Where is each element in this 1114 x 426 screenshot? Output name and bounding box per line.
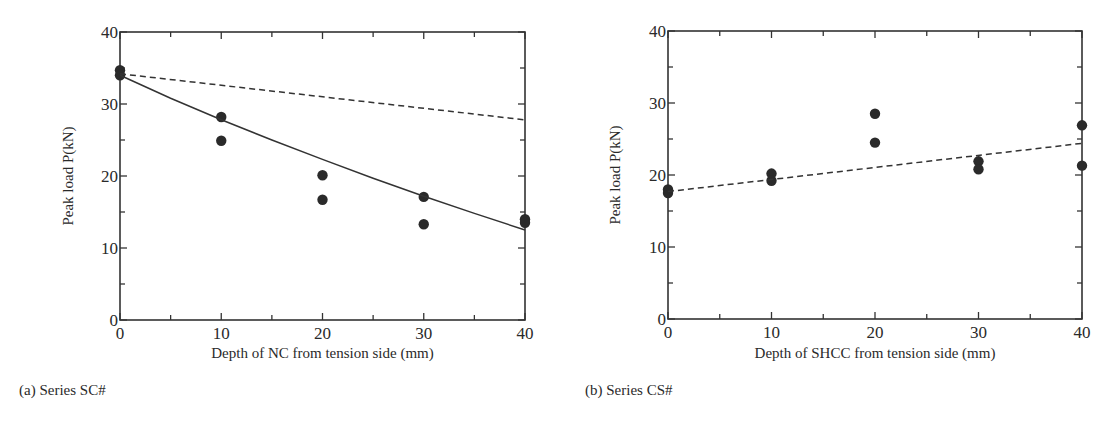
data-point (766, 176, 776, 186)
x-tick-label: 20 (867, 323, 884, 342)
y-tick-label: 40 (101, 23, 118, 42)
y-tick-label: 20 (101, 167, 118, 186)
data-point (419, 219, 429, 229)
data-point (973, 164, 983, 174)
data-point (317, 195, 327, 205)
y-tick-label: 40 (649, 22, 666, 41)
dashed-trend-line (120, 74, 525, 120)
caption-panel-b: (b) Series CS# (585, 382, 673, 399)
y-tick-label: 20 (649, 166, 666, 185)
x-tick-label: 20 (314, 324, 331, 343)
y-axis-title: Peak load P(kN) (60, 126, 77, 225)
x-tick-label: 40 (1074, 323, 1091, 342)
x-tick-label: 10 (213, 324, 230, 343)
caption-panel-a: (a) Series SC# (19, 382, 106, 399)
data-point (216, 136, 226, 146)
dashed-trend-line (668, 143, 1082, 191)
y-tick-label: 0 (658, 310, 667, 329)
y-tick-label: 0 (110, 311, 119, 330)
y-tick-label: 30 (101, 95, 118, 114)
y-tick-label: 10 (101, 239, 118, 258)
solid-fit-curve (120, 75, 525, 230)
data-point (317, 170, 327, 180)
x-tick-label: 40 (517, 324, 534, 343)
x-tick-label: 30 (970, 323, 987, 342)
figure: 010203040010203040Depth of NC from tensi… (0, 0, 1114, 426)
y-tick-label: 10 (649, 238, 666, 257)
chart-panel-a: 010203040010203040Depth of NC from tensi… (60, 23, 534, 362)
x-axis-title: Depth of NC from tension side (mm) (211, 345, 433, 362)
x-tick-label: 10 (763, 323, 780, 342)
x-axis-title: Depth of SHCC from tension side (mm) (755, 345, 996, 362)
plot-frame (668, 31, 1082, 319)
data-point (870, 137, 880, 147)
data-point (1077, 120, 1087, 130)
data-point (520, 218, 530, 228)
data-point (663, 188, 673, 198)
x-tick-label: 30 (415, 324, 432, 343)
y-axis-title: Peak load P(kN) (607, 125, 624, 224)
y-tick-label: 30 (649, 94, 666, 113)
chart-panel-b: 010203040010203040Depth of SHCC from ten… (607, 22, 1091, 362)
data-point (1077, 160, 1087, 170)
data-point (870, 109, 880, 119)
